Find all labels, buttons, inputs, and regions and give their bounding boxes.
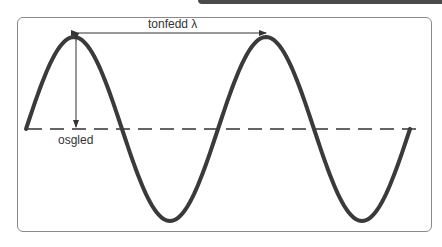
amplitude-label: osgled	[58, 133, 93, 147]
wavelength-label: tonfedd λ	[148, 17, 197, 31]
wave-diagram	[0, 0, 442, 247]
